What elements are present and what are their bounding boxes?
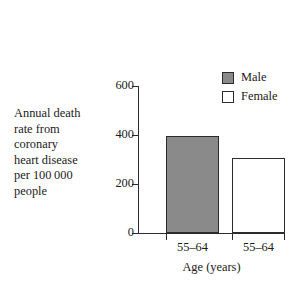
legend-swatch-female <box>222 91 234 103</box>
legend-item-male: Male <box>222 68 277 87</box>
y-axis-label-line: people <box>14 184 110 200</box>
y-axis-label-line: coronary <box>14 137 110 153</box>
y-axis-label-line: heart disease <box>14 153 110 169</box>
x-tick-label: 55–64 <box>229 240 289 255</box>
y-tick-label: 0 <box>128 225 134 240</box>
x-tick-mark <box>166 233 167 240</box>
y-tick-label: 400 <box>115 127 134 142</box>
legend-label-female: Female <box>241 89 277 104</box>
y-tick-label: 600 <box>115 78 134 93</box>
y-axis-label: Annual death rate from coronary heart di… <box>14 106 110 200</box>
y-axis-line <box>138 86 139 233</box>
y-axis-label-line: per 100 000 <box>14 168 110 184</box>
y-axis-label-line: rate from <box>14 122 110 138</box>
y-axis-label-line: Annual death <box>14 106 110 122</box>
bar-male <box>166 136 219 234</box>
y-tick-label: 200 <box>115 176 134 191</box>
x-axis-line <box>138 233 285 234</box>
x-axis-label: Age (years) <box>138 260 285 275</box>
x-tick-mark <box>284 233 285 240</box>
legend-swatch-male <box>222 72 234 84</box>
x-tick-label: 55–64 <box>163 240 223 255</box>
legend: Male Female <box>222 68 277 106</box>
legend-label-male: Male <box>241 70 266 85</box>
bar-chart-figure: Annual death rate from coronary heart di… <box>0 0 305 286</box>
plot-area: 0 200 400 600 55–64 55–64 Age (years) <box>138 86 285 233</box>
legend-item-female: Female <box>222 87 277 106</box>
x-tick-mark <box>232 233 233 240</box>
bar-female <box>232 158 285 233</box>
